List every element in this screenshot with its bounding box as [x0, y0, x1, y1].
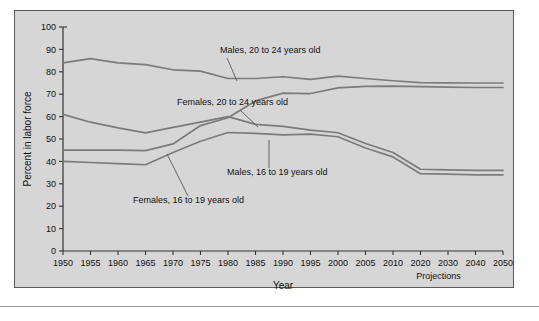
figure-root: 1009080706050403020100195019551960196519… [0, 0, 539, 321]
x-tick-label-2050: 2050 [493, 258, 513, 268]
series-annotation-0: Males, 20 to 24 years old [220, 45, 321, 55]
y-tick-label-90: 90 [46, 45, 56, 55]
x-tick-label-1955: 1955 [80, 258, 100, 268]
x-tick-label-1960: 1960 [108, 258, 128, 268]
projections-note: Projections [416, 271, 461, 281]
x-tick-label-1995: 1995 [300, 258, 320, 268]
y-tick-label-30: 30 [46, 179, 56, 189]
x-tick-label-2000: 2000 [328, 258, 348, 268]
plot-area: 1009080706050403020100195019551960196519… [15, 11, 515, 289]
annotation-leader-1 [240, 110, 258, 127]
series-annotation-3: Females, 16 to 19 years old [133, 195, 244, 205]
x-tick-label-1950: 1950 [53, 258, 73, 268]
chart-svg: 1009080706050403020100195019551960196519… [15, 11, 515, 289]
y-tick-label-0: 0 [51, 246, 56, 256]
series-line-males-20-to-24-years-old [63, 59, 503, 83]
y-tick-label-10: 10 [46, 224, 56, 234]
annotation-leader-3 [167, 154, 188, 196]
x-tick-label-1985: 1985 [245, 258, 265, 268]
series-annotation-1: Females, 20 to 24 years old [177, 97, 288, 107]
x-axis-title: Year [273, 280, 294, 289]
x-tick-label-1980: 1980 [218, 258, 238, 268]
y-tick-label-100: 100 [41, 22, 56, 32]
series-line-females-20-to-24-years-old [63, 86, 503, 151]
y-axis-title: Percent in labor force [22, 91, 33, 186]
y-tick-label-40: 40 [46, 157, 56, 167]
x-tick-label-2030: 2030 [438, 258, 458, 268]
x-tick-label-2040: 2040 [465, 258, 485, 268]
y-tick-label-70: 70 [46, 89, 56, 99]
x-tick-label-1975: 1975 [190, 258, 210, 268]
annotation-leader-0 [227, 58, 237, 81]
y-tick-label-60: 60 [46, 112, 56, 122]
figure-divider-rule [0, 306, 539, 307]
chart-panel: 1009080706050403020100195019551960196519… [14, 10, 514, 288]
series-annotation-2: Males, 16 to 19 years old [227, 167, 328, 177]
x-tick-label-2005: 2005 [355, 258, 375, 268]
y-tick-label-20: 20 [46, 201, 56, 211]
series-line-males-16-to-19-years-old [63, 114, 503, 170]
x-tick-label-1965: 1965 [135, 258, 155, 268]
x-tick-label-2020: 2020 [410, 258, 430, 268]
x-tick-label-1990: 1990 [273, 258, 293, 268]
y-tick-label-50: 50 [46, 134, 56, 144]
x-tick-label-2010: 2010 [383, 258, 403, 268]
x-tick-label-1970: 1970 [163, 258, 183, 268]
y-tick-label-80: 80 [46, 67, 56, 77]
